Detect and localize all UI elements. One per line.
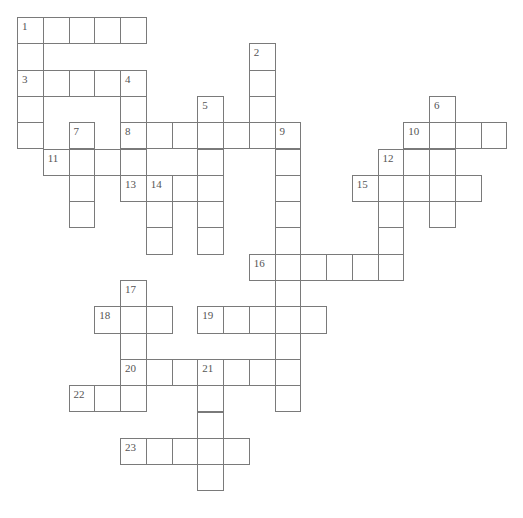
crossword-cell[interactable] [94,149,121,176]
crossword-cell[interactable] [120,96,147,123]
crossword-cell[interactable] [455,122,482,149]
crossword-cell[interactable] [455,175,482,202]
crossword-cell[interactable] [120,149,147,176]
crossword-cell[interactable]: 11 [43,149,70,176]
crossword-cell[interactable] [172,122,199,149]
crossword-cell[interactable]: 12 [378,149,405,176]
crossword-cell[interactable]: 20 [120,359,147,386]
crossword-cell[interactable] [223,122,250,149]
crossword-cell[interactable] [223,359,250,386]
crossword-cell[interactable]: 16 [249,254,276,281]
crossword-cell[interactable]: 5 [197,96,224,123]
crossword-cell[interactable] [197,149,224,176]
crossword-cell[interactable] [197,227,224,254]
crossword-cell[interactable]: 8 [120,122,147,149]
crossword-cell[interactable] [69,175,96,202]
crossword-cell[interactable] [17,96,44,123]
crossword-cell[interactable] [146,122,173,149]
crossword-cell[interactable] [17,122,44,149]
crossword-cell[interactable] [275,359,302,386]
crossword-cell[interactable]: 4 [120,70,147,97]
crossword-cell[interactable] [94,70,121,97]
crossword-cell[interactable] [69,149,96,176]
crossword-cell[interactable]: 14 [146,175,173,202]
crossword-cell[interactable] [120,306,147,333]
crossword-cell[interactable] [429,122,456,149]
crossword-cell[interactable] [146,438,173,465]
crossword-cell[interactable]: 6 [429,96,456,123]
crossword-cell[interactable] [378,175,405,202]
crossword-cell[interactable] [120,17,147,44]
crossword-cell[interactable] [403,149,430,176]
crossword-cell[interactable]: 3 [17,70,44,97]
crossword-cell[interactable] [146,201,173,228]
crossword-cell[interactable] [429,175,456,202]
crossword-cell[interactable] [172,438,199,465]
crossword-cell[interactable] [275,149,302,176]
crossword-cell[interactable] [94,385,121,412]
crossword-cell[interactable] [275,201,302,228]
crossword-cell[interactable] [378,254,405,281]
crossword-cell[interactable] [197,385,224,412]
crossword-cell[interactable]: 23 [120,438,147,465]
crossword-cell[interactable] [120,385,147,412]
crossword-cell[interactable] [275,333,302,360]
crossword-cell[interactable] [352,254,379,281]
crossword-cell[interactable]: 21 [197,359,224,386]
crossword-cell[interactable] [223,306,250,333]
crossword-cell[interactable] [197,175,224,202]
crossword-cell[interactable]: 18 [94,306,121,333]
crossword-cell[interactable] [172,359,199,386]
crossword-cell[interactable] [378,227,405,254]
crossword-cell[interactable] [223,438,250,465]
crossword-cell[interactable] [197,122,224,149]
crossword-cell[interactable]: 9 [275,122,302,149]
crossword-cell[interactable] [197,201,224,228]
crossword-cell[interactable]: 15 [352,175,379,202]
crossword-cell[interactable]: 17 [120,280,147,307]
crossword-cell[interactable]: 10 [403,122,430,149]
crossword-cell[interactable] [326,254,353,281]
crossword-cell[interactable] [403,175,430,202]
crossword-cell[interactable] [249,359,276,386]
crossword-cell[interactable] [429,149,456,176]
crossword-cell[interactable] [197,412,224,439]
crossword-cell[interactable] [481,122,508,149]
crossword-cell[interactable] [197,464,224,491]
crossword-cell[interactable] [197,438,224,465]
crossword-cell[interactable] [146,306,173,333]
crossword-cell[interactable] [249,96,276,123]
crossword-cell[interactable] [275,175,302,202]
crossword-cell[interactable]: 13 [120,175,147,202]
crossword-cell[interactable] [43,70,70,97]
crossword-cell[interactable] [43,17,70,44]
crossword-cell[interactable] [275,385,302,412]
crossword-cell[interactable] [275,227,302,254]
clue-number: 15 [357,179,368,190]
crossword-cell[interactable] [249,306,276,333]
crossword-cell[interactable]: 2 [249,43,276,70]
crossword-cell[interactable]: 1 [17,17,44,44]
clue-number: 17 [125,284,136,295]
crossword-cell[interactable] [94,17,121,44]
crossword-cell[interactable]: 22 [69,385,96,412]
crossword-cell[interactable] [146,227,173,254]
crossword-cell[interactable] [249,70,276,97]
crossword-cell[interactable] [120,333,147,360]
crossword-cell[interactable] [275,306,302,333]
crossword-cell[interactable] [249,122,276,149]
crossword-cell[interactable] [429,201,456,228]
crossword-cell[interactable]: 19 [197,306,224,333]
crossword-cell[interactable] [172,175,199,202]
crossword-cell[interactable] [146,359,173,386]
crossword-cell[interactable] [275,280,302,307]
crossword-cell[interactable] [300,306,327,333]
crossword-cell[interactable] [17,43,44,70]
crossword-cell[interactable]: 7 [69,122,96,149]
crossword-cell[interactable] [275,254,302,281]
crossword-cell[interactable] [378,201,405,228]
crossword-cell[interactable] [69,17,96,44]
crossword-cell[interactable] [300,254,327,281]
crossword-cell[interactable] [69,70,96,97]
crossword-cell[interactable] [69,201,96,228]
